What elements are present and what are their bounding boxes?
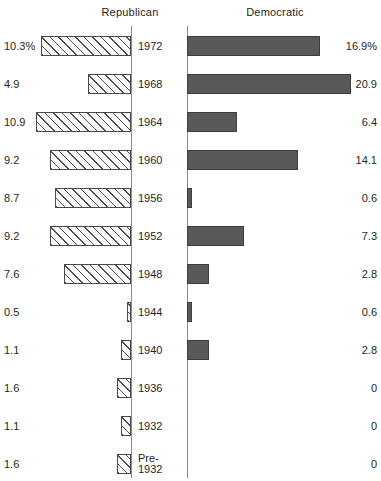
- republican-value-label: 4.9: [4, 78, 38, 90]
- table-row: 9.2196014.1: [0, 141, 381, 179]
- table-row: 1.119402.8: [0, 331, 381, 369]
- year-label: 1956: [138, 193, 182, 204]
- republican-value-label: 1.1: [4, 420, 38, 432]
- republican-bar: [127, 302, 131, 322]
- table-row: 1.6Pre- 19320: [0, 445, 381, 481]
- table-row: 7.619482.8: [0, 255, 381, 293]
- democratic-bar: [187, 302, 192, 322]
- table-row: 9.219527.3: [0, 217, 381, 255]
- column-heading-republican: Republican: [55, 6, 205, 18]
- democratic-value-label: 0: [337, 382, 377, 394]
- democratic-bar: [187, 150, 298, 170]
- year-label: 1936: [138, 383, 182, 394]
- democratic-value-label: 14.1: [337, 154, 377, 166]
- republican-bar: [55, 188, 131, 208]
- year-label: 1952: [138, 231, 182, 242]
- year-label: Pre- 1932: [138, 453, 182, 475]
- democratic-bar: [187, 264, 209, 284]
- republican-bar: [50, 150, 131, 170]
- democratic-bar: [187, 188, 192, 208]
- table-row: 1.619360: [0, 369, 381, 407]
- republican-bar: [117, 378, 131, 398]
- republican-value-label: 0.5: [4, 306, 38, 318]
- democratic-bar: [187, 226, 244, 246]
- paired-bar-chart: Republican Democratic 10.3%197216.9%4.91…: [0, 0, 381, 481]
- republican-bar: [36, 112, 131, 132]
- table-row: 10.3%197216.9%: [0, 27, 381, 65]
- table-row: 0.519440.6: [0, 293, 381, 331]
- republican-value-label: 1.6: [4, 458, 38, 470]
- year-label: 1940: [138, 345, 182, 356]
- republican-bar: [41, 36, 131, 56]
- table-row: 8.719560.6: [0, 179, 381, 217]
- table-row: 4.9196820.9: [0, 65, 381, 103]
- year-label: 1948: [138, 269, 182, 280]
- democratic-value-label: 0.6: [337, 192, 377, 204]
- republican-value-label: 7.6: [4, 268, 38, 280]
- republican-value-label: 9.2: [4, 230, 38, 242]
- democratic-value-label: 7.3: [337, 230, 377, 242]
- democratic-value-label: 0: [337, 420, 377, 432]
- year-label: 1932: [138, 421, 182, 432]
- year-label: 1944: [138, 307, 182, 318]
- republican-value-label: 8.7: [4, 192, 38, 204]
- republican-value-label: 10.3%: [4, 40, 38, 52]
- republican-value-label: 10.9: [4, 116, 38, 128]
- table-row: 10.919646.4: [0, 103, 381, 141]
- republican-bar: [50, 226, 131, 246]
- democratic-value-label: 6.4: [337, 116, 377, 128]
- republican-value-label: 1.6: [4, 382, 38, 394]
- year-label: 1960: [138, 155, 182, 166]
- republican-value-label: 1.1: [4, 344, 38, 356]
- democratic-value-label: 16.9%: [337, 40, 377, 52]
- republican-bar: [121, 416, 131, 436]
- democratic-value-label: 2.8: [337, 268, 377, 280]
- republican-bar: [64, 264, 131, 284]
- year-label: 1972: [138, 41, 182, 52]
- year-label: 1968: [138, 79, 182, 90]
- democratic-bar: [187, 74, 351, 94]
- republican-bar: [121, 340, 131, 360]
- republican-bar: [117, 454, 131, 474]
- democratic-bar: [187, 112, 237, 132]
- year-label: 1964: [138, 117, 182, 128]
- republican-value-label: 9.2: [4, 154, 38, 166]
- table-row: 1.119320: [0, 407, 381, 445]
- democratic-value-label: 2.8: [337, 344, 377, 356]
- democratic-bar: [187, 36, 320, 56]
- republican-bar: [88, 74, 131, 94]
- democratic-value-label: 20.9: [337, 78, 377, 90]
- democratic-value-label: 0.6: [337, 306, 377, 318]
- democratic-value-label: 0: [337, 458, 377, 470]
- democratic-bar: [187, 340, 209, 360]
- column-heading-democratic: Democratic: [200, 6, 350, 18]
